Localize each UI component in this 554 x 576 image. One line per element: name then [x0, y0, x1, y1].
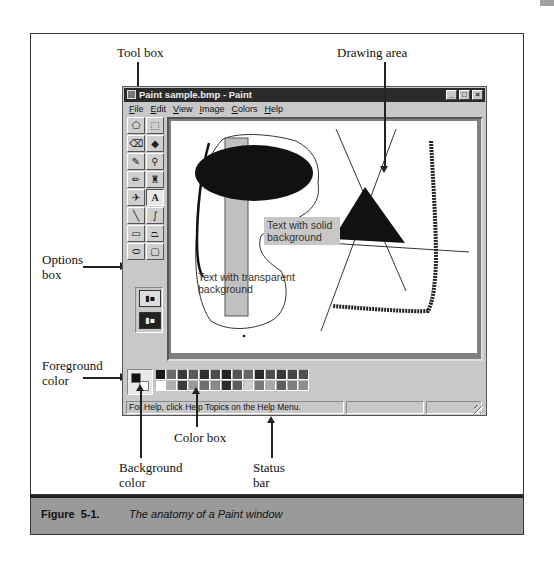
solid-text-line2: background	[267, 231, 337, 243]
callout-background-line1: Background	[119, 460, 183, 475]
callout-status-line2: bar	[253, 475, 285, 490]
color-swatch[interactable]	[276, 380, 287, 391]
figure-caption-bar: Figure 5-1. The anatomy of a Paint windo…	[30, 495, 524, 535]
color-swatch[interactable]	[287, 380, 298, 391]
callout-status-bar: Status bar	[253, 460, 285, 490]
color-swatch[interactable]	[232, 380, 243, 391]
window-title: Paint sample.bmp - Paint	[139, 88, 252, 102]
callout-line-background	[140, 390, 142, 458]
curve-icon[interactable]: ∫	[146, 207, 164, 224]
page-corner-tab	[540, 0, 554, 6]
callout-tool-box: Tool box	[117, 45, 163, 60]
pick-color-icon[interactable]: ✎	[127, 153, 145, 170]
pencil-icon[interactable]: ✏	[127, 171, 145, 188]
rounded-rectangle-icon[interactable]: ▢	[146, 243, 164, 260]
color-swatch[interactable]	[232, 369, 243, 380]
color-swatch[interactable]	[221, 380, 232, 391]
color-swatch[interactable]	[287, 369, 298, 380]
color-swatch[interactable]	[254, 380, 265, 391]
title-bar[interactable]: Paint sample.bmp - Paint _ □ ×	[124, 88, 485, 102]
callout-line-options-box	[83, 266, 121, 268]
menu-image[interactable]: Image	[199, 102, 224, 116]
color-box	[124, 367, 485, 399]
color-swatch[interactable]	[155, 380, 166, 391]
maximize-button[interactable]: □	[459, 90, 470, 100]
color-palette	[155, 369, 309, 391]
status-bar: For Help, click Help Topics on the Help …	[124, 401, 485, 415]
free-form-select-icon[interactable]: ⬠	[127, 117, 145, 134]
text-solid-background: Text with solid background	[264, 217, 340, 245]
color-swatch[interactable]	[254, 369, 265, 380]
color-swatch[interactable]	[166, 380, 177, 391]
color-swatch[interactable]	[155, 369, 166, 380]
callout-options-box: Options box	[42, 252, 83, 282]
magnifier-icon[interactable]: ⚲	[146, 153, 164, 170]
color-swatch[interactable]	[243, 369, 254, 380]
resize-grip-icon[interactable]	[474, 405, 483, 414]
arrow-up-icon	[136, 384, 144, 391]
color-swatch[interactable]	[166, 369, 177, 380]
color-swatch[interactable]	[298, 380, 309, 391]
menu-file[interactable]: File	[129, 102, 144, 116]
transparent-text-line2: background	[198, 283, 295, 295]
rectangle-icon[interactable]: ▭	[127, 225, 145, 242]
paint-app-icon[interactable]	[127, 90, 136, 99]
callout-options-box-line2: box	[42, 267, 83, 282]
figure-caption: The anatomy of a Paint window	[129, 508, 282, 520]
callout-drawing-area: Drawing area	[337, 45, 407, 60]
color-swatch[interactable]	[265, 380, 276, 391]
airbrush-icon[interactable]: ✈	[127, 189, 145, 206]
color-swatch[interactable]	[177, 380, 188, 391]
callout-status-line1: Status	[253, 460, 285, 475]
color-swatch[interactable]	[199, 380, 210, 391]
callout-foreground-line1: Foreground	[42, 358, 103, 373]
callout-foreground-color: Foreground color	[42, 358, 103, 388]
minimize-button[interactable]: _	[446, 90, 457, 100]
menu-view[interactable]: View	[173, 102, 192, 116]
opaque-background-option[interactable]: ▮▪	[139, 290, 161, 307]
color-swatch[interactable]	[199, 369, 210, 380]
color-swatch[interactable]	[210, 380, 221, 391]
color-swatch[interactable]	[298, 369, 309, 380]
callout-line-color-box	[196, 393, 198, 427]
text-tool-icon[interactable]: A	[146, 189, 164, 206]
arrow-up-icon	[192, 387, 200, 394]
arrow-up-icon	[267, 416, 275, 423]
callout-background-color: Background color	[119, 460, 183, 490]
brush-icon[interactable]: ♜	[146, 171, 164, 188]
polygon-icon[interactable]: ⏢	[146, 225, 164, 242]
menu-help[interactable]: Help	[264, 102, 283, 116]
tool-box: ⬠ ⬚ ⌫ ◆ ✎ ⚲ ✏ ♜ ✈ A ╲ ∫ ▭ ⏢ ⬭ ▢ ▮▪ ▮▪	[127, 117, 165, 343]
color-swatch[interactable]	[177, 369, 188, 380]
menu-edit[interactable]: Edit	[151, 102, 167, 116]
color-swatch[interactable]	[188, 369, 199, 380]
callout-options-box-line1: Options	[42, 252, 83, 267]
callout-line-foreground	[83, 377, 121, 379]
eraser-icon[interactable]: ⌫	[127, 135, 145, 152]
color-swatch[interactable]	[210, 369, 221, 380]
color-swatch[interactable]	[243, 380, 254, 391]
menu-colors[interactable]: Colors	[231, 102, 257, 116]
close-button[interactable]: ×	[472, 90, 483, 100]
color-swatch[interactable]	[276, 369, 287, 380]
options-box: ▮▪ ▮▪	[135, 287, 163, 333]
ellipse-icon[interactable]: ⬭	[127, 243, 145, 260]
paint-window: Paint sample.bmp - Paint _ □ × File Edit…	[122, 86, 487, 416]
color-swatch[interactable]	[265, 369, 276, 380]
foreground-color-swatch[interactable]	[131, 373, 141, 383]
menu-bar: File Edit View Image Colors Help	[124, 102, 485, 116]
callout-background-line2: color	[119, 475, 183, 490]
color-swatch[interactable]	[221, 369, 232, 380]
text-transparent-background: Text with transparent background	[198, 271, 295, 295]
callout-color-box: Color box	[174, 430, 226, 445]
drawing-area-well: Text with solid background Text with tra…	[167, 117, 483, 361]
drawing-canvas[interactable]: Text with solid background Text with tra…	[171, 121, 477, 353]
line-icon[interactable]: ╲	[127, 207, 145, 224]
transparent-text-line1: Text with transparent	[198, 271, 295, 283]
fill-bucket-icon[interactable]: ◆	[146, 135, 164, 152]
status-message: For Help, click Help Topics on the Help …	[126, 401, 344, 414]
select-icon[interactable]: ⬚	[146, 117, 164, 134]
figure-number: Figure 5-1.	[41, 508, 100, 520]
transparent-background-option[interactable]: ▮▪	[139, 312, 161, 329]
callout-line-status-bar	[271, 422, 273, 458]
